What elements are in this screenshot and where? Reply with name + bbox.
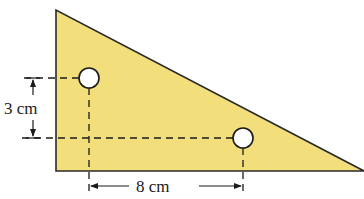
hole-2	[233, 128, 253, 148]
triangle-diagram: 3 cm 8 cm	[0, 0, 364, 199]
vertical-dimension-label: 3 cm	[4, 99, 38, 118]
horizontal-dimension-label: 8 cm	[136, 177, 170, 196]
hole-1	[79, 68, 99, 88]
triangle-plate	[56, 10, 364, 171]
